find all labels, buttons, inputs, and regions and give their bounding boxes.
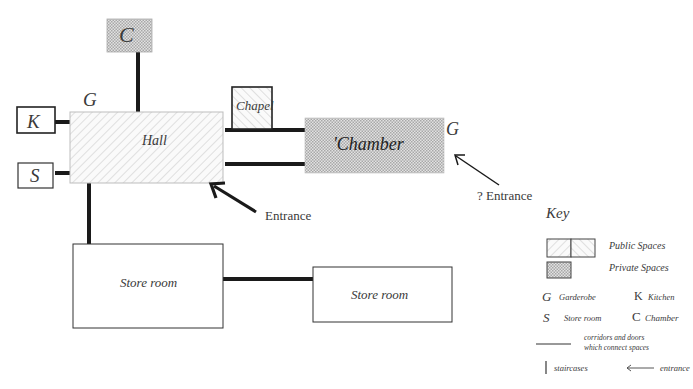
key-c-symbol: C [632,309,641,325]
key-entrance-label: entrance [660,363,690,373]
entrance-arrow-icon [211,183,256,212]
garderobe-chamber-marker: G [446,119,459,140]
possible-entrance-arrow-icon [455,155,499,185]
key-corridor-label-1: corridors and doors [584,333,644,342]
key-staircases-label: staircases [554,363,588,373]
key-public-swatch-b [571,239,595,257]
key-public-swatch-a [547,239,571,257]
chamber-label: 'Chamber [333,134,404,155]
store-small-label: S [30,165,40,187]
key-title: Key [546,205,569,222]
key-c-label: Chamber [645,313,679,323]
floor-plan [0,0,693,389]
entrance-label: Entrance [265,208,311,224]
possible-entrance-label: ? Entrance [477,188,532,204]
key-entrance-arrow-icon [627,365,654,371]
key-s-label: Store room [564,313,601,323]
key-g-symbol: G [542,289,551,305]
garderobe-hall-marker: G [83,89,97,111]
key-k-label: Kitchen [648,292,674,302]
room-c-label: C [119,22,134,48]
key-g-label: Garderobe [559,292,596,302]
key-corridor-label-2: which connect spaces [584,343,649,352]
kitchen-label: K [27,111,40,133]
key-k-symbol: K [634,289,643,304]
key-s-symbol: S [543,310,550,326]
store-room-2-label: Store room [351,287,408,303]
chapel-label: Chapel [236,98,274,114]
store-room-1-label: Store room [120,275,177,291]
hall-label: Hall [142,133,167,149]
key-private-swatch [547,262,571,278]
key-private-label: Private Spaces [609,262,669,273]
key-public-label: Public Spaces [609,240,665,251]
